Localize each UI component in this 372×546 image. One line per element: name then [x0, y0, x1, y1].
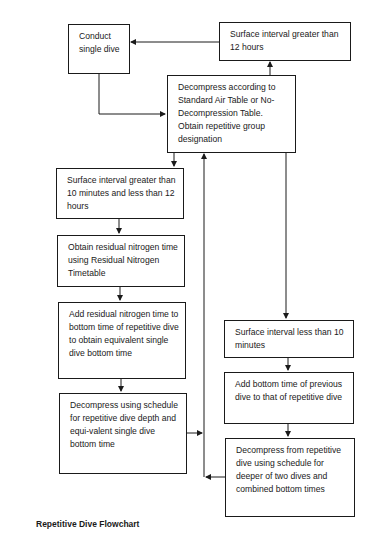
- node-conduct-single-dive: Conduct single dive: [68, 24, 130, 74]
- figure-caption: Repetitive Dive Flowchart: [36, 519, 139, 529]
- node-si-10min-12h: Surface interval greater than 10 minutes…: [56, 168, 184, 219]
- node-add-residual: Add residual nitrogen time to bottom tim…: [58, 302, 186, 379]
- node-decompress-deeper: Decompress from repetitive dive using sc…: [225, 438, 355, 517]
- node-si-greater-12h: Surface interval greater than 12 hours: [219, 22, 351, 61]
- node-add-bottom-time: Add bottom time of previous dive to that…: [224, 372, 354, 424]
- node-si-less-10min: Surface interval less than 10 minutes: [224, 320, 354, 358]
- edge-conduct-to-decompress: [99, 73, 165, 114]
- node-obtain-residual: Obtain residual nitrogen time using Resi…: [57, 235, 185, 287]
- node-decompress-repetitive-schedule: Decompress using schedule for repetitive…: [59, 393, 187, 474]
- node-decompress-standard: Decompress according to Standard Air Tab…: [167, 75, 296, 153]
